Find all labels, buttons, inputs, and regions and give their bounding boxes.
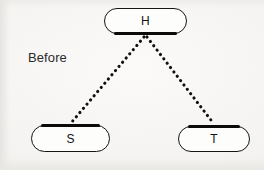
diagram-canvas: H S T Before bbox=[0, 0, 264, 170]
edge-h-to-s bbox=[71, 37, 144, 123]
edge-h-to-t bbox=[147, 37, 214, 124]
node-s-label: S bbox=[66, 133, 74, 145]
node-h[interactable]: H bbox=[104, 8, 187, 34]
node-s[interactable]: S bbox=[31, 125, 110, 152]
before-caption: Before bbox=[28, 50, 67, 65]
node-t-label: T bbox=[210, 133, 218, 145]
node-h-label: H bbox=[141, 15, 150, 27]
node-t[interactable]: T bbox=[178, 126, 250, 152]
